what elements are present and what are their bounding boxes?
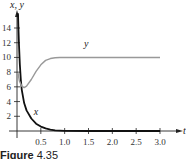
series-y-line — [18, 57, 160, 87]
y-tick-label: 4 — [7, 97, 12, 107]
y-tick-label: 6 — [7, 82, 12, 92]
x-tick-label: 3.0 — [154, 137, 166, 147]
y-tick-label: 2 — [7, 111, 12, 121]
y-axis-label: x, y — [9, 0, 24, 10]
y-tick-label: 12 — [2, 38, 11, 48]
series-label-y: y — [83, 38, 89, 49]
x-axis-arrow-icon — [176, 129, 183, 133]
x-tick-label: 1.5 — [83, 137, 95, 147]
series-label-x: x — [33, 106, 39, 117]
x-tick-label: 1.0 — [59, 137, 71, 147]
y-tick-label: 14 — [2, 23, 12, 33]
x-axis-label: t — [183, 125, 186, 136]
chart: 0.51.01.52.02.53.02468101214 tx, yyx — [0, 0, 186, 159]
y-tick-label: 8 — [7, 67, 12, 77]
x-tick-label: 2.5 — [131, 137, 143, 147]
figure-caption: Figure 4.35 — [0, 149, 58, 159]
labels-group: tx, yyx — [9, 0, 186, 136]
series-group — [18, 13, 160, 131]
series-x-line — [18, 13, 160, 131]
x-tick-label: 2.0 — [107, 137, 119, 147]
caption-label: Figure — [0, 149, 34, 159]
y-tick-label: 10 — [2, 52, 12, 62]
caption-number: 4.35 — [37, 149, 58, 159]
axes: 0.51.01.52.02.53.02468101214 — [2, 10, 183, 147]
x-tick-label: 0.5 — [35, 137, 47, 147]
